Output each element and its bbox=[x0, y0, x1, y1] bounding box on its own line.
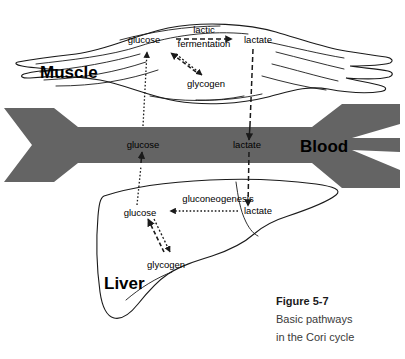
liver-lactate-label: lactate bbox=[244, 205, 272, 216]
lactate-muscle-to-blood-arrow bbox=[250, 49, 253, 125]
glucose-blood-upward-arrow bbox=[141, 152, 142, 163]
muscle-lactate-label: lactate bbox=[244, 34, 272, 45]
muscle-compartment: glucose lactate glycogen lactic fermenta… bbox=[16, 24, 392, 104]
cori-cycle-diagram: glucose lactate glycogen lactic fermenta… bbox=[0, 0, 405, 359]
lactate-blood-entry-arrow bbox=[249, 125, 250, 140]
caption-line-1: Basic pathways bbox=[276, 313, 353, 325]
figure-caption: Figure 5-7 Basic pathways in the Cori cy… bbox=[276, 295, 354, 343]
liver-label: Liver bbox=[104, 274, 145, 293]
glucose-liver-to-blood-arrow bbox=[137, 166, 141, 205]
muscle-label: Muscle bbox=[40, 63, 98, 82]
muscle-glucose-label: glucose bbox=[128, 34, 161, 45]
caption-title: Figure 5-7 bbox=[276, 295, 329, 307]
liver-glucose-to-glycogen-arrow bbox=[154, 219, 170, 252]
muscle-glycogen-to-glucose-arrow bbox=[171, 53, 196, 72]
liver-glycogen-label: glycogen bbox=[147, 259, 185, 270]
lactic-fermentation-label-line2: fermentation bbox=[178, 38, 231, 49]
lactic-fermentation-label-line1: lactic bbox=[193, 24, 215, 35]
muscle-fiber-line bbox=[196, 94, 262, 100]
muscle-fiber-line bbox=[272, 64, 338, 81]
blood-label: Blood bbox=[300, 137, 348, 156]
cori-cycle-figure: glucose lactate glycogen lactic fermenta… bbox=[0, 0, 405, 359]
muscle-glucose-to-glycogen-arrow bbox=[176, 54, 202, 75]
blood-lactate-label: lactate bbox=[233, 139, 261, 150]
gluconeogenesis-label: gluconeogenesis bbox=[182, 193, 254, 204]
muscle-glycogen-label: glycogen bbox=[187, 78, 225, 89]
blood-glucose-label: glucose bbox=[127, 139, 160, 150]
blood-compartment: glucose lactate Blood bbox=[4, 104, 400, 188]
liver-glucose-label: glucose bbox=[124, 207, 157, 218]
caption-line-2: in the Cori cycle bbox=[276, 331, 354, 343]
muscle-fiber-line bbox=[276, 52, 344, 69]
muscle-fiber-line bbox=[268, 42, 344, 58]
